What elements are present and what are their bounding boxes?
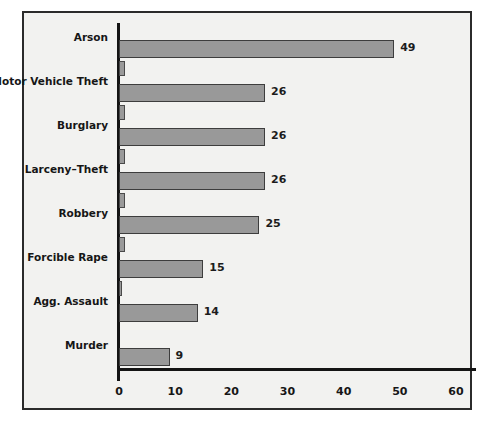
bar-value-label: 9: [176, 347, 184, 365]
bar-primary: [119, 40, 394, 58]
bar-primary: [119, 128, 265, 146]
category-label: Larceny–Theft: [0, 162, 108, 176]
bar-secondary: [119, 193, 125, 208]
category-label: Motor Vehicle Theft: [0, 74, 108, 88]
category-label: Robbery: [0, 206, 108, 220]
bar-value-label: 26: [271, 127, 286, 145]
bar-value-label: 26: [271, 171, 286, 189]
bar-row: 15: [119, 257, 456, 301]
category-label: Forcible Rape: [0, 250, 108, 264]
bar-row: 49: [119, 37, 456, 81]
bar-value-label: 49: [400, 39, 415, 57]
category-label: Burglary: [0, 118, 108, 132]
bar-row: 26: [119, 169, 456, 213]
chart-panel: 492626262515149 ArsonMotor Vehicle Theft…: [22, 11, 472, 410]
x-tick-label: 20: [224, 385, 239, 398]
bar-row: 14: [119, 301, 456, 345]
category-label: Murder: [0, 338, 108, 352]
bar-value-label: 25: [265, 215, 280, 233]
bar-value-label: 14: [204, 303, 219, 321]
bar-value-label: 26: [271, 83, 286, 101]
plot-area: 492626262515149: [119, 25, 456, 380]
bar-secondary: [119, 237, 125, 252]
bar-row: 26: [119, 125, 456, 169]
bar-primary: [119, 84, 265, 102]
bar-primary: [119, 172, 265, 190]
x-tick-label: 60: [448, 385, 463, 398]
category-label: Agg. Assault: [0, 294, 108, 308]
bar-secondary: [119, 61, 125, 76]
bar-primary: [119, 260, 203, 278]
bar-primary: [119, 348, 170, 366]
bar-row: 26: [119, 81, 456, 125]
bar-secondary: [119, 105, 125, 120]
bar-primary: [119, 216, 259, 234]
bar-value-label: 15: [209, 259, 224, 277]
x-tick-label: 30: [280, 385, 295, 398]
bar-row: 9: [119, 345, 456, 389]
bar-primary: [119, 304, 198, 322]
x-tick-label: 50: [392, 385, 407, 398]
bar-secondary: [119, 281, 122, 296]
bar-row: 25: [119, 213, 456, 257]
x-tick-label: 40: [336, 385, 351, 398]
category-label: Arson: [0, 30, 108, 44]
x-tick-label: 0: [115, 385, 123, 398]
bar-secondary: [119, 149, 125, 164]
x-tick-label: 10: [168, 385, 183, 398]
